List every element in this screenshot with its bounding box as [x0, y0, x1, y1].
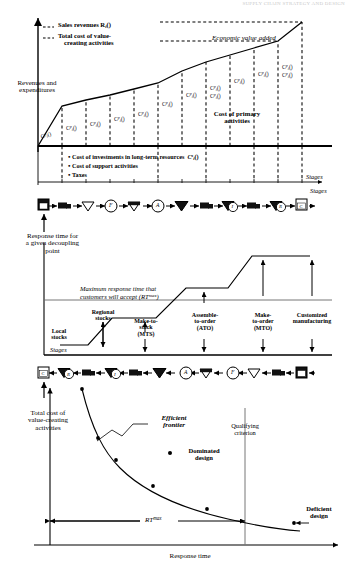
panel3-dominated-point	[168, 451, 172, 455]
regional-stocks-l2: stocks	[83, 315, 123, 321]
panel3-rtmax-label: RTmax	[145, 516, 162, 524]
step-cost-label-10b: Cpi()	[282, 72, 293, 79]
panel2-rtmax-label: Maximum response time that customers wil…	[80, 286, 159, 301]
economic-value-added-label: Economic value added	[212, 35, 276, 42]
panel2-x-axis-label: Stages	[50, 347, 67, 354]
step-cost-label-5: Cpi()	[162, 101, 173, 108]
chain1-node-i: I	[232, 204, 234, 209]
qc-l2: criterion	[219, 430, 271, 437]
panel1-bullet-2: • Taxes	[68, 172, 87, 179]
chain1-artwork	[38, 199, 315, 232]
panel3-frontier-leader	[97, 424, 148, 441]
dom-l2: design	[178, 455, 230, 462]
figure-root: SUPPLY CHAIN STRATEGY AND DESIGN	[0, 0, 351, 571]
panel2-step-make-to-order: Make- to-order (MTO)	[243, 312, 283, 331]
step-cost-label-8: Cpi()	[234, 78, 245, 85]
chain1-node-supplier: S	[41, 205, 44, 210]
legend-sales-revenues: Sales revenues Ri()	[58, 22, 111, 29]
mto-l3: (MTO)	[243, 325, 283, 331]
panel1-bullet-1: • Cost of support activities	[68, 163, 138, 170]
panel2-step-make-to-stock: Make-to- stock (MTS)	[126, 318, 166, 337]
panel3-qualifying-criterion-label: Qualifying criterion	[219, 423, 271, 436]
panel3-x-axis-label: Response time	[140, 553, 240, 560]
chain1-stages-label: Stages	[310, 188, 327, 195]
panel3-y-l3: activities	[0, 425, 96, 432]
panel2-rtmax-line1: Maximum response time that	[80, 286, 159, 293]
step-cost-label-2: Cpi()	[90, 121, 101, 128]
panel3-efficient-frontier-label: Efficient frontier	[148, 415, 200, 430]
panel2-step-customized-manufacturing: Customized manufacturing	[286, 312, 338, 325]
panel1-x-axis-label: Stages	[306, 174, 323, 181]
chain1-node-f: F	[109, 203, 112, 209]
panel3-deficient-design-label: Deficient design	[296, 506, 342, 520]
chain2-node-supplier: S	[299, 372, 302, 377]
panel1-legend-swatches	[43, 27, 54, 38]
cost-primary-line2: activities	[206, 117, 268, 124]
panel3-y-axis-label: Total cost of value-creating activities	[0, 410, 96, 432]
chain2-node-customer: C	[42, 372, 45, 377]
panel1-y-axis-label: Revenues and expenditures	[2, 80, 72, 95]
panel1-y-axis-line2: expenditures	[2, 87, 72, 94]
ato-l3: (ATO)	[184, 325, 226, 331]
def-l2: design	[296, 513, 342, 520]
panel2-y-line3: point	[0, 248, 105, 255]
local-stocks-l2: stocks	[44, 334, 74, 340]
mts-l3: (MTS)	[126, 331, 166, 337]
chain1-node-a: A	[156, 203, 159, 209]
cm-l2: manufacturing	[286, 318, 338, 324]
panel2-step-regional-stocks: Regional stocks	[83, 309, 123, 322]
chain1-node-r: R	[279, 204, 282, 209]
chain2-node-i: I	[114, 372, 116, 377]
chain2-node-a: A	[184, 370, 187, 376]
panel2-step-local-stocks: Local stocks	[44, 328, 74, 341]
panel2-rtmax-line2: customers will accept (RTmax)	[80, 293, 159, 301]
panel3-dominated-design-label: Dominated design	[178, 448, 230, 462]
chain2-node-r: R	[67, 372, 70, 377]
step-cost-label-10: Cpi()	[282, 64, 293, 71]
legend-total-cost: Total cost of value- creating activities	[58, 33, 114, 47]
panel2-y-axis-label: Response time for a given decoupling poi…	[0, 233, 105, 255]
panel1-bullet-0: • Cost of investments in long-term resou…	[68, 154, 199, 162]
step-cost-label-4: Cpi()	[138, 111, 149, 118]
chain2-artwork	[38, 367, 315, 398]
panel2-step-assemble-to-order: Assemble- to-order (ATO)	[184, 312, 226, 331]
ef-l2: frontier	[148, 422, 200, 429]
step-cost-label-9: Cpi()	[258, 71, 269, 78]
chain2-node-f: F	[231, 370, 234, 376]
cost-primary-line1: Cost of primary	[206, 110, 268, 117]
step-cost-label-6: Cpi()	[186, 92, 197, 99]
cost-of-primary-activities-label: Cost of primary activities	[206, 110, 268, 124]
step-cost-label-1: Cpi()	[66, 125, 77, 132]
legend-total-cost-line2: creating activities	[58, 40, 114, 47]
step-cost-label-3: Cpi()	[114, 116, 125, 123]
step-cost-label-7b: Cpi()	[210, 93, 221, 100]
chain1-node-customer: C	[300, 205, 303, 210]
panel2-callout-arrows	[103, 260, 312, 352]
step-cost-label-7: Cpi()	[210, 85, 221, 92]
